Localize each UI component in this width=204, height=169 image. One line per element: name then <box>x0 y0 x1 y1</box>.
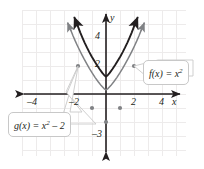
graph-figure: –4 –2 2 4 4 2 –3 x y f(x) = x2 g(x) = x2… <box>0 0 204 169</box>
f-function-callout: f(x) = x2 <box>143 60 189 85</box>
g-function-label: g(x) = x2 – 2 <box>14 120 65 131</box>
x-tick-label-2: 2 <box>131 96 136 107</box>
y-tick-label-2: 2 <box>95 58 100 69</box>
x-axis-label: x <box>172 96 176 107</box>
y-tick-label--3: –3 <box>92 128 102 139</box>
f-function-label: f(x) = x2 <box>149 68 183 79</box>
x-tick-label--4: –4 <box>27 96 37 107</box>
y-tick-label-4: 4 <box>95 30 100 41</box>
x-tick-label--2: –2 <box>69 96 79 107</box>
y-axis-label: y <box>110 12 114 23</box>
g-function-callout: g(x) = x2 – 2 <box>8 112 71 137</box>
x-tick-label-4: 4 <box>159 96 164 107</box>
